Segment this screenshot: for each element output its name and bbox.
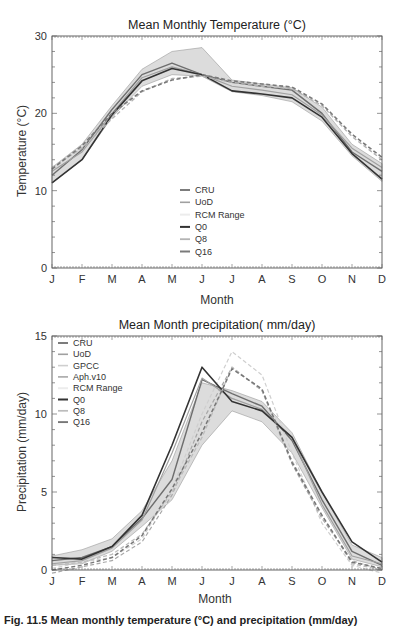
legend-label: CRU: [195, 185, 215, 195]
legend-item: Q8: [58, 406, 85, 416]
legend-item: RCM Range: [58, 383, 123, 393]
temperature-chart-title: Mean Monthly Temperature (°C): [128, 18, 306, 32]
legend-label: Q0: [73, 395, 85, 405]
legend-label: Q16: [195, 247, 212, 257]
legend-item: GPCC: [58, 361, 100, 371]
precipitation-plot-area: 051015JFMAMJJASONDCRUUoDGPCCAph.v10RCM R…: [35, 330, 386, 587]
rcm-range-band: [52, 383, 382, 567]
x-tick-label: J: [49, 575, 55, 587]
x-tick-label: A: [258, 575, 266, 587]
x-tick-label: D: [378, 273, 386, 285]
legend-item: Q0: [58, 395, 85, 405]
legend-item: Q8: [180, 234, 207, 244]
x-tick-label: M: [107, 273, 116, 285]
x-tick-label: J: [49, 273, 55, 285]
x-tick-label: F: [79, 273, 86, 285]
x-tick-label: M: [167, 575, 176, 587]
x-tick-label: A: [138, 273, 146, 285]
legend-item: RCM Range: [180, 210, 245, 220]
x-tick-label: O: [318, 273, 327, 285]
precipitation-chart-title: Mean Month precipitation( mm/day): [119, 318, 316, 332]
temperature-x-axis-label: Month: [200, 293, 233, 307]
y-tick-label: 0: [41, 262, 47, 274]
legend-item: Q16: [180, 247, 212, 257]
x-tick-label: J: [229, 575, 235, 587]
legend-item: CRU: [180, 185, 215, 195]
figure-caption: Fig. 11.5 Mean monthly temperature (°C) …: [4, 614, 357, 626]
legend-label: CRU: [73, 338, 93, 348]
x-tick-label: N: [348, 273, 356, 285]
legend-label: GPCC: [73, 361, 100, 371]
temperature-plot-area: 0102030JFMAMJJASONDCRUUoDRCM RangeQ0Q8Q1…: [35, 30, 386, 285]
legend-item: UoD: [180, 197, 214, 207]
precipitation-legend: CRUUoDGPCCAph.v10RCM RangeQ0Q8Q16: [58, 338, 123, 427]
x-tick-label: D: [378, 575, 386, 587]
legend-item: Q16: [58, 417, 90, 427]
legend-item: UoD: [58, 349, 92, 359]
precipitation-x-axis-label: Month: [198, 592, 231, 606]
rcm-range-band: [52, 48, 382, 183]
y-tick-label: 10: [35, 408, 47, 420]
legend-label: UoD: [73, 349, 92, 359]
x-tick-label: J: [199, 575, 205, 587]
legend-label: RCM Range: [195, 210, 245, 220]
temperature-legend: CRUUoDRCM RangeQ0Q8Q16: [180, 185, 245, 257]
temperature-chart: Mean Monthly Temperature (°C) 0102030JFM…: [15, 18, 386, 307]
legend-label: Q16: [73, 417, 90, 427]
x-tick-label: A: [258, 273, 266, 285]
y-tick-label: 30: [35, 30, 47, 42]
legend-label: Aph.v10: [73, 372, 106, 382]
x-tick-label: M: [107, 575, 116, 587]
precipitation-chart: Mean Month precipitation( mm/day) 051015…: [15, 318, 386, 606]
x-tick-label: M: [167, 273, 176, 285]
y-tick-label: 15: [35, 330, 47, 342]
temperature-y-axis-label: Temperature (°C): [15, 105, 29, 197]
x-tick-label: J: [199, 273, 205, 285]
x-tick-label: O: [318, 575, 327, 587]
legend-label: UoD: [195, 197, 214, 207]
y-tick-label: 0: [41, 564, 47, 576]
legend-label: Q8: [195, 234, 207, 244]
legend-label: Q0: [195, 222, 207, 232]
y-tick-label: 10: [35, 185, 47, 197]
x-tick-label: S: [288, 273, 295, 285]
x-tick-label: S: [288, 575, 295, 587]
x-tick-label: F: [79, 575, 86, 587]
y-tick-label: 5: [41, 486, 47, 498]
x-tick-label: J: [229, 273, 235, 285]
y-tick-label: 20: [35, 107, 47, 119]
x-tick-label: A: [138, 575, 146, 587]
legend-item: Aph.v10: [58, 372, 106, 382]
legend-item: Q0: [180, 222, 207, 232]
x-tick-label: N: [348, 575, 356, 587]
legend-item: CRU: [58, 338, 93, 348]
legend-label: RCM Range: [73, 383, 123, 393]
legend-label: Q8: [73, 406, 85, 416]
precipitation-y-axis-label: Precipitation (mm/day): [15, 392, 29, 512]
